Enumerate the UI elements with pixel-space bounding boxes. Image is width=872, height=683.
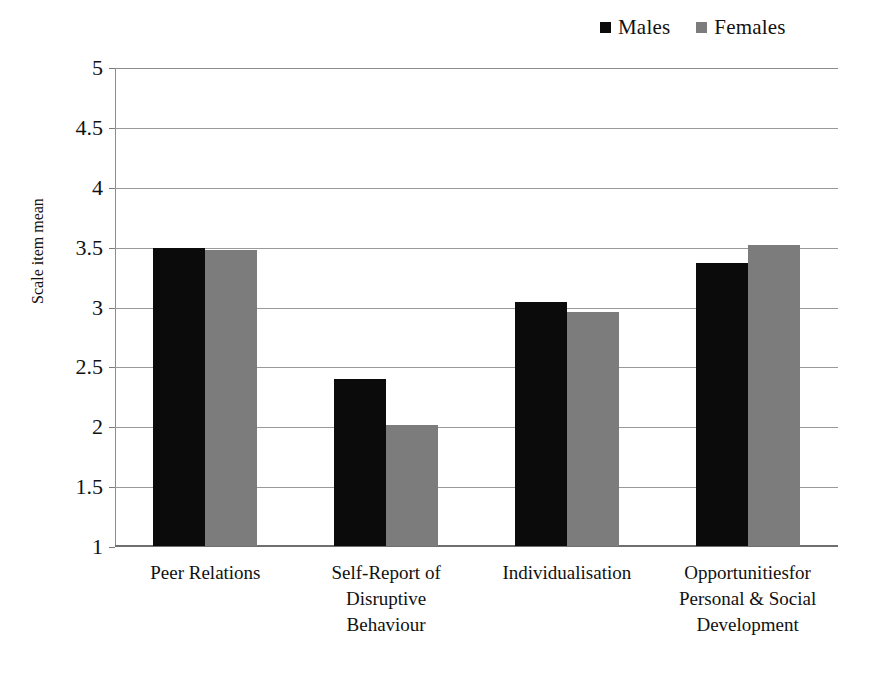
y-tick-mark (109, 68, 115, 69)
gridline (115, 248, 838, 249)
y-tick-mark (109, 308, 115, 309)
y-tick-label: 4.5 (76, 117, 104, 139)
gray-square-icon (696, 22, 707, 33)
legend-label-males: Males (618, 17, 670, 38)
bar-males-2[interactable] (334, 379, 386, 546)
y-tick-label: 3 (92, 297, 103, 319)
y-tick-label: 4 (92, 177, 103, 199)
bar-males-4[interactable] (696, 263, 748, 546)
bar-females-3[interactable] (567, 312, 619, 546)
bar-males-1[interactable] (153, 248, 205, 546)
chart-legend: Males Females (600, 14, 786, 40)
x-tick-label-4: Opportunitiesfor Personal & Social Devel… (657, 560, 838, 638)
gridline (115, 188, 838, 189)
legend-label-females: Females (714, 17, 785, 38)
legend-entry-females: Females (696, 17, 785, 38)
y-tick-mark (109, 427, 115, 428)
x-tick-label-3: Individualisation (477, 560, 658, 586)
bar-males-3[interactable] (515, 302, 567, 546)
plot-area: 11.522.533.544.55 (115, 68, 838, 547)
y-tick-mark (109, 547, 115, 548)
legend-entry-males: Males (600, 17, 670, 38)
bar-females-2[interactable] (386, 425, 438, 546)
y-tick-mark (109, 128, 115, 129)
y-tick-mark (109, 188, 115, 189)
bar-females-1[interactable] (205, 250, 257, 546)
y-tick-label: 3.5 (76, 237, 104, 259)
x-tick-label-2: Self-Report of Disruptive Behaviour (296, 560, 477, 638)
y-tick-mark (109, 487, 115, 488)
x-tick-label-1: Peer Relations (115, 560, 296, 586)
y-tick-mark (109, 367, 115, 368)
gridline (115, 128, 838, 129)
black-square-icon (600, 22, 611, 33)
y-tick-label: 2.5 (76, 356, 104, 378)
y-tick-label: 1.5 (76, 476, 104, 498)
bar-females-4[interactable] (748, 245, 800, 546)
y-tick-label: 1 (92, 536, 103, 558)
y-tick-label: 5 (92, 57, 103, 79)
plot-border-top (115, 68, 838, 69)
chart-figure: Males Females Scale item mean 11.522.533… (0, 0, 872, 683)
y-axis-title: Scale item mean (29, 151, 47, 351)
y-tick-label: 2 (92, 416, 103, 438)
y-tick-mark (109, 248, 115, 249)
